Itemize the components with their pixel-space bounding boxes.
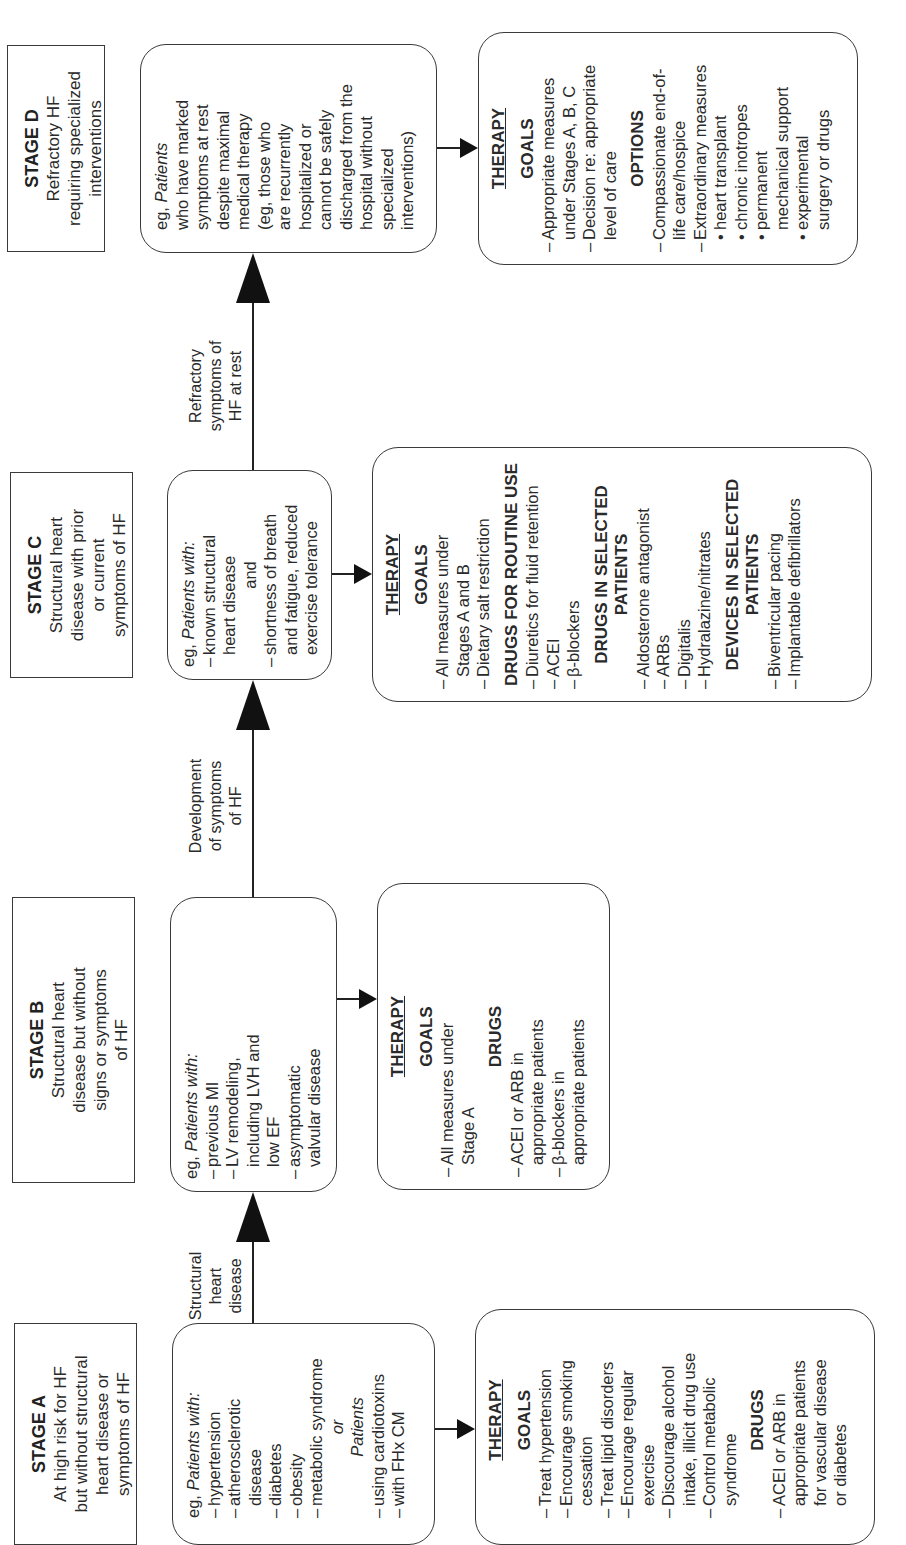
patient-line: discharged from the [336, 57, 357, 230]
stage-a-desc-line: At high risk for HF [50, 1324, 71, 1544]
therapy-title: THERAPY [383, 460, 404, 689]
arrow-down-icon [354, 564, 372, 584]
stage-a-desc-line: but without structural [71, 1324, 92, 1544]
therapy-line: Extraordinary measures [690, 45, 711, 252]
and-label: and [240, 483, 261, 667]
eg-label: eg, [182, 1151, 200, 1179]
section-heading: OPTIONS [628, 45, 649, 252]
stage-c-desc-line: symptoms of HF [109, 473, 130, 677]
therapy-line: cessation [576, 1322, 597, 1518]
stage-c-title: STAGE C [25, 473, 46, 677]
therapy-line: Compassionate end-of- [649, 45, 670, 252]
arrow-down-icon [460, 138, 478, 158]
therapy-line: Stage A [458, 896, 479, 1177]
arrow-down-icon [457, 1419, 475, 1439]
connector-line [332, 574, 354, 576]
transition-label-line: disease [226, 1231, 246, 1341]
transition-label-c-d: Refractory symptoms of HF at rest [186, 326, 246, 446]
therapy-bullet: permanent [751, 45, 772, 252]
therapy-line: appropriate patients [568, 896, 589, 1177]
therapy-line: Biventricular pacing [764, 460, 785, 689]
patient-line: interventions) [397, 57, 418, 230]
patient-line: are recurrently [274, 57, 295, 230]
patient-item: shortness of breath [260, 483, 281, 667]
stage-d-therapy-box: THERAPY GOALS Appropriate measures under… [478, 32, 858, 265]
therapy-line: appropriate patients [527, 896, 548, 1177]
stage-b-desc-line: disease but without [69, 898, 90, 1182]
transition-line [252, 1241, 254, 1323]
therapy-line: Implantable defibrillators [784, 460, 805, 689]
transition-label-line: Structural [186, 1231, 206, 1341]
patient-line: cannot be safely [315, 57, 336, 230]
therapy-bullet-cont: surgery or drugs [813, 45, 834, 252]
therapy-line: Encourage regular [617, 1322, 638, 1518]
patient-line: (eg, those who [254, 57, 275, 230]
therapy-line: Stages A and B [453, 460, 474, 689]
patients-with-label: Patients with: [184, 1392, 202, 1490]
patients-with-label: Patients with: [182, 1053, 200, 1151]
transition-label-line: of HF [226, 741, 246, 871]
therapy-line: ACEI [543, 460, 564, 689]
patient-item: exercise tolerance [301, 483, 322, 667]
stage-a-desc-line: symptoms of HF [113, 1324, 134, 1544]
stage-a-therapy-box: THERAPY GOALS Treat hypertension Encoura… [475, 1309, 875, 1545]
patient-item: metabolic syndrome [306, 1336, 327, 1518]
therapy-line: Diuretics for fluid retention [522, 460, 543, 689]
patients-label: Patients [347, 1336, 368, 1518]
therapy-line: ACEI or ARB in [507, 896, 528, 1177]
stage-d-desc-line: requiring specialized [64, 46, 85, 251]
therapy-title: THERAPY [489, 45, 510, 252]
therapy-line: Treat hypertension [535, 1322, 556, 1518]
section-heading: DRUGS IN SELECTED PATIENTS [592, 460, 633, 689]
stage-b-patients-box: eg, Patients with: previous MI LV remode… [170, 897, 337, 1192]
transition-label-a-b: Structural heart disease [186, 1231, 246, 1341]
therapy-line: All measures under [437, 896, 458, 1177]
stage-d-patients-box: eg, Patients who have marked symptoms at… [140, 44, 437, 253]
therapy-line: β-blockers in [548, 896, 569, 1177]
stage-b-desc-line: signs or symptoms [90, 898, 111, 1182]
patient-line: specialized [377, 57, 398, 230]
arrow-right-icon [236, 253, 270, 303]
transition-label-b-c: Development of symptoms of HF [186, 741, 246, 871]
section-heading: GOALS [417, 896, 438, 1177]
section-heading: GOALS [412, 460, 433, 689]
therapy-line: Hydralazine/nitrates [694, 460, 715, 689]
patient-item: LV remodeling, [222, 910, 243, 1179]
patient-item: heart disease [219, 483, 240, 667]
stage-a-title: STAGE A [29, 1324, 50, 1544]
therapy-line: Treat lipid disorders [597, 1322, 618, 1518]
patient-item: with FHx CM [388, 1336, 409, 1518]
patient-line: symptoms at rest [192, 57, 213, 230]
patient-line: medical therapy [233, 57, 254, 230]
therapy-title: THERAPY [486, 1322, 507, 1518]
patient-item: including LVH and [243, 910, 264, 1179]
patient-line: hospitalized or [295, 57, 316, 230]
transition-label-line: heart [206, 1231, 226, 1341]
therapy-bullet: heart transplant [710, 45, 731, 252]
patient-item: atherosclerotic [224, 1336, 245, 1518]
patient-item: valvular disease [304, 910, 325, 1179]
eg-label: eg, [184, 1490, 202, 1518]
transition-label-line: Refractory [186, 326, 206, 446]
patient-item: and fatigue, reduced [281, 483, 302, 667]
therapy-bullet: chronic inotropes [731, 45, 752, 252]
eg-label: eg, [152, 202, 170, 230]
therapy-line: level of care [600, 45, 621, 252]
stage-a-desc-line: heart disease or [92, 1324, 113, 1544]
therapy-line: under Stages A, B, C [559, 45, 580, 252]
therapy-line: Decision re: appropriate [579, 45, 600, 252]
therapy-line: intake, illicit drug use [679, 1322, 700, 1518]
patient-item: disease [245, 1336, 266, 1518]
stage-c-desc-line: Structural heart [46, 473, 67, 677]
patient-item: using cardiotoxins [368, 1336, 389, 1518]
stage-a-patients-box: eg, Patients with: hypertension atherosc… [172, 1323, 435, 1545]
section-heading: GOALS [515, 1322, 536, 1518]
transition-line [252, 729, 254, 897]
therapy-line: Discourage alcohol [658, 1322, 679, 1518]
therapy-line: for vascular disease [810, 1322, 831, 1518]
patient-item: obesity [286, 1336, 307, 1518]
connector-line [435, 1429, 457, 1431]
transition-label-line: symptoms of [206, 326, 226, 446]
transition-label-line: Development [186, 741, 206, 871]
